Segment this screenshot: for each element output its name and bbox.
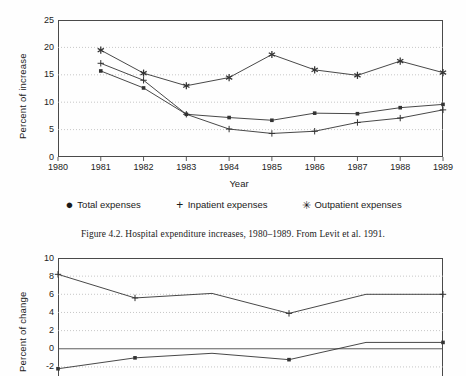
y-tick-label: 25 [28,16,54,25]
data-point-dot [313,111,317,115]
x-axis-label-top: Year [6,178,466,189]
y-tick-label: 20 [28,43,54,52]
x-tick-label: 1986 [295,163,335,172]
x-tick-label: 1983 [166,163,206,172]
data-point-star [140,70,146,77]
y-axis-label-top: Percent of increase [17,53,28,139]
x-tick-label: 1988 [380,163,420,172]
data-point-plus [311,128,317,134]
data-point-dot [287,358,291,362]
y-axis-label-bottom: Percent of change [17,291,28,372]
data-point-dot [441,341,445,345]
data-point-plus [55,271,61,277]
data-point-dot [56,367,60,371]
y-tick-label: -2 [28,362,54,371]
data-point-star [98,47,104,54]
data-point-plus [286,310,292,316]
y-tick-label: 4 [28,308,54,317]
line-chart-bottom [58,258,443,376]
x-tick-label: 1985 [252,163,292,172]
figure-hospital-expenditure: Percent of increase 2520151050 198019811… [0,0,466,250]
plot-area-bottom [58,258,443,376]
data-point-plus [440,291,446,297]
x-tick-label: 1987 [337,163,377,172]
legend-item-plus: +Inpatient expenses [175,199,268,210]
data-point-plus [226,126,232,132]
data-point-star [397,58,403,65]
legend-label: Outpatient expenses [314,199,401,210]
legend-marker-dot-icon: ● [64,200,74,209]
data-point-plus [269,130,275,136]
data-point-plus [397,115,403,121]
y-tick-label: 2 [28,326,54,335]
figure-percent-of-change: Percent of change 1086420-2 [0,252,466,376]
y-tick-label: 10 [28,254,54,263]
y-tick-label: 5 [28,125,54,134]
y-tick-label: 10 [28,98,54,107]
legend-item-dot: ●Total expenses [64,199,140,210]
data-point-dot [356,112,360,116]
series-line [58,342,443,368]
data-point-plus [132,295,138,301]
legend-item-star: ✳Outpatient expenses [301,199,401,210]
data-point-star [440,69,446,76]
legend-marker-star-icon: ✳ [301,200,311,210]
series-line [58,274,443,313]
data-point-dot [227,116,231,120]
data-point-dot [142,86,146,90]
y-tick-label: 0 [28,153,54,162]
data-point-dot [99,69,103,73]
data-point-star [269,51,275,58]
data-point-dot [133,356,137,360]
plot-area-top [58,20,443,157]
data-point-dot [398,106,402,110]
series-line [101,71,443,120]
y-tick-label: 15 [28,70,54,79]
y-tick-label: 8 [28,272,54,281]
line-chart-top [58,20,443,157]
data-point-plus [354,119,360,125]
chart-legend: ●Total expenses+Inpatient expenses✳Outpa… [0,199,466,210]
legend-marker-plus-icon: + [175,200,185,210]
data-point-plus [440,107,446,113]
data-point-dot [270,118,274,122]
legend-label: Inpatient expenses [188,199,268,210]
y-tick-label: 6 [28,290,54,299]
data-point-dot [441,103,445,107]
data-point-plus [98,60,104,66]
x-tick-label: 1984 [209,163,249,172]
page-canvas: Percent of increase 2520151050 198019811… [0,0,466,376]
x-tick-label: 1981 [81,163,121,172]
series-line [101,63,443,133]
x-tick-label: 1980 [38,163,78,172]
x-tick-label: 1989 [423,163,463,172]
x-tick-label: 1982 [124,163,164,172]
y-tick-label: 0 [28,344,54,353]
legend-label: Total expenses [77,199,140,210]
figure-caption: Figure 4.2. Hospital expenditure increas… [0,229,466,239]
